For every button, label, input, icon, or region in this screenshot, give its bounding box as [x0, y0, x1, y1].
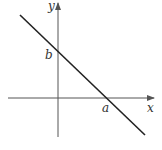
x-intercept-label: a: [102, 101, 109, 115]
x-axis-label: x: [147, 101, 154, 115]
y-intercept-label: b: [45, 48, 53, 62]
diagram-canvas: y x b a: [0, 0, 162, 150]
y-axis-label: y: [47, 0, 55, 13]
graph-line: [20, 15, 145, 135]
